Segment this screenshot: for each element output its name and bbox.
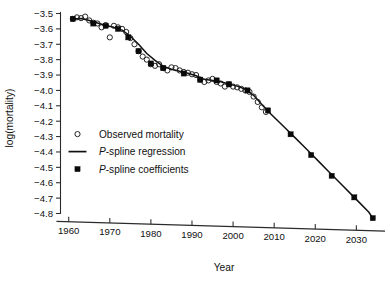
y-tick-label: −3.5 (34, 8, 53, 19)
y-tick-label: −4.3 (34, 131, 53, 142)
x-axis: 19601970198019902000201020202030 (57, 217, 386, 245)
y-tick-label: −4.1 (34, 100, 53, 111)
legend-entry-label: P-spline coefficients (99, 164, 189, 175)
chart-canvas: −3.5−3.6−3.7−3.8−3.9−4.0−4.1−4.2−4.3−4.4… (0, 0, 390, 287)
series-observed-mortality (70, 14, 268, 115)
legend-open-circle-icon (75, 132, 80, 137)
x-tick-label: 2030 (346, 234, 367, 245)
y-axis-title: log(mortality) (4, 89, 15, 148)
legend-entry-label: Observed mortality (99, 129, 185, 140)
pspline-coefficient-point (115, 26, 120, 31)
y-tick-label: −3.8 (34, 54, 53, 65)
legend-filled-square-icon (75, 167, 80, 172)
chart-figure: −3.5−3.6−3.7−3.8−3.9−4.0−4.1−4.2−4.3−4.4… (0, 0, 390, 287)
x-axis-title: Year (214, 262, 235, 273)
pspline-coefficient-point (126, 35, 131, 40)
y-tick-label: −4.0 (34, 85, 53, 96)
y-tick-label: −3.6 (34, 23, 53, 34)
pspline-coefficient-point (329, 173, 334, 178)
observed-mortality-point (132, 42, 137, 47)
pspline-coefficient-point (226, 82, 231, 87)
pspline-regression-line (73, 18, 373, 218)
pspline-coefficient-point (352, 195, 357, 200)
series-pspline-coefficients (70, 16, 375, 220)
pspline-coefficient-point (70, 16, 75, 21)
x-tick-label: 1980 (140, 228, 161, 239)
x-tick-label: 1960 (58, 225, 79, 236)
pspline-coefficient-point (265, 108, 270, 113)
legend-entry-label: P-spline regression (99, 146, 185, 157)
series-pspline-regression (73, 18, 373, 218)
pspline-coefficient-point (91, 21, 96, 26)
pspline-coefficient-point (161, 66, 166, 71)
pspline-coefficient-point (136, 49, 141, 54)
pspline-coefficient-point (245, 88, 250, 93)
y-tick-label: −4.7 (34, 193, 53, 204)
y-tick-label: −4.6 (34, 177, 53, 188)
pspline-coefficient-point (370, 216, 375, 221)
x-tick-label: 2020 (305, 233, 326, 244)
y-tick-label: −3.7 (34, 39, 53, 50)
y-tick-label: −4.4 (34, 146, 54, 157)
y-tick-label: −4.2 (34, 116, 53, 127)
x-tick-label: 2000 (222, 230, 243, 241)
y-tick-label: −4.8 (34, 208, 53, 219)
pspline-coefficient-point (288, 132, 293, 137)
pspline-coefficient-point (103, 23, 108, 28)
y-axis: −3.5−3.6−3.7−3.8−3.9−4.0−4.1−4.2−4.3−4.4… (34, 8, 60, 219)
y-tick-label: −4.5 (34, 162, 53, 173)
pspline-coefficient-point (181, 71, 186, 76)
chart-legend: Observed mortalityP-spline regressionP-s… (69, 129, 189, 175)
pspline-coefficient-point (198, 77, 203, 82)
x-tick-label: 1990 (181, 229, 202, 240)
x-tick-label: 1970 (99, 226, 120, 237)
pspline-coefficient-point (214, 78, 219, 83)
pspline-coefficient-point (309, 152, 314, 157)
x-tick-label: 2010 (263, 231, 284, 242)
y-tick-label: −3.9 (34, 69, 53, 80)
observed-mortality-point (107, 35, 112, 40)
pspline-coefficient-point (148, 61, 153, 66)
